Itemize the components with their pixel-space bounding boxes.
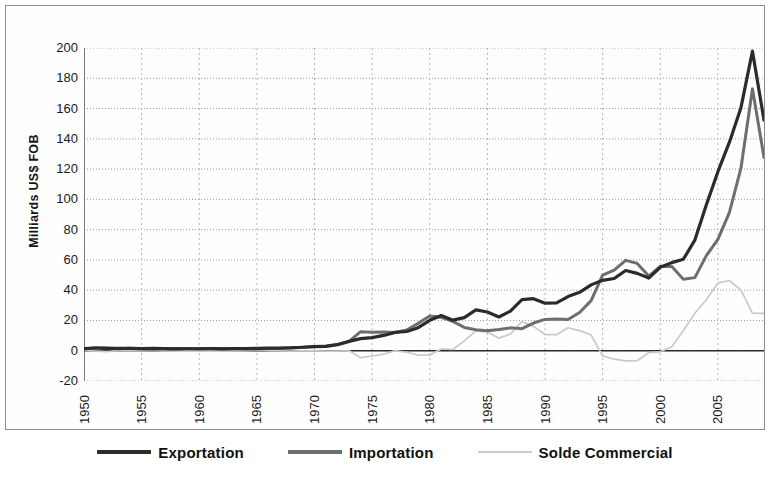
legend-line-icon xyxy=(288,450,342,454)
x-tick-label-text: 2005 xyxy=(710,395,725,424)
chart-figure: Milliards US$ FOB 2001801601401201008060… xyxy=(0,0,775,493)
y-tick-label: 80 xyxy=(36,223,78,236)
gridlines xyxy=(84,48,764,381)
y-tick-label: 100 xyxy=(36,192,78,205)
y-tick-label: 120 xyxy=(36,162,78,175)
x-tick-label: 1995 xyxy=(578,384,628,417)
legend-item[interactable]: Solde Commercial xyxy=(478,444,673,461)
x-tick-label: 1975 xyxy=(347,384,397,417)
plot-area xyxy=(84,48,764,381)
series-line xyxy=(84,89,764,349)
legend-line-icon xyxy=(97,450,151,454)
x-tick-label-text: 1955 xyxy=(134,395,149,424)
x-tick-label-text: 1960 xyxy=(192,395,207,424)
x-tick-label: 1990 xyxy=(520,384,570,417)
legend-line-icon xyxy=(478,451,532,453)
x-tick-label: 2000 xyxy=(635,384,685,417)
x-tick-label: 1950 xyxy=(59,384,109,417)
chart-legend: ExportationImportationSolde Commercial xyxy=(5,432,765,472)
x-tick-label-text: 2000 xyxy=(653,395,668,424)
legend-item[interactable]: Exportation xyxy=(97,444,244,461)
legend-label: Importation xyxy=(349,444,434,461)
x-tick-label-text: 1980 xyxy=(422,395,437,424)
series-line xyxy=(84,51,764,349)
plot-svg xyxy=(84,48,764,381)
x-tick-label: 1970 xyxy=(290,384,340,417)
x-tick-label: 1955 xyxy=(117,384,167,417)
x-tick-label: 1985 xyxy=(462,384,512,417)
x-tick-label: 2005 xyxy=(693,384,743,417)
y-tick-label: 20 xyxy=(36,313,78,326)
x-axis-tick-labels: 1950195519601965197019751980198519901995… xyxy=(84,384,764,434)
x-tick-label: 1960 xyxy=(174,384,224,417)
legend-item[interactable]: Importation xyxy=(288,444,434,461)
x-tick-label: 1980 xyxy=(405,384,455,417)
x-tick-label-text: 1965 xyxy=(249,395,264,424)
x-tick-label-text: 1995 xyxy=(595,395,610,424)
y-tick-label: 200 xyxy=(36,41,78,54)
legend-label: Solde Commercial xyxy=(539,444,673,461)
data-series xyxy=(84,51,764,361)
x-tick-label-text: 1950 xyxy=(76,395,91,424)
y-tick-label: 160 xyxy=(36,102,78,115)
chart-frame: Milliards US$ FOB 2001801601401201008060… xyxy=(5,5,765,430)
x-tick-label-text: 1990 xyxy=(538,395,553,424)
y-tick-label: 60 xyxy=(36,253,78,266)
y-tick-label: 0 xyxy=(36,344,78,357)
y-tick-label: 180 xyxy=(36,71,78,84)
x-tick-label-text: 1970 xyxy=(307,395,322,424)
axis-lines xyxy=(84,48,764,381)
legend-label: Exportation xyxy=(158,444,244,461)
y-tick-label: 40 xyxy=(36,283,78,296)
y-axis-tick-labels: 200180160140120100806040200-20 xyxy=(34,48,78,381)
bottom-margin xyxy=(0,478,775,493)
x-tick-label: 1965 xyxy=(232,384,282,417)
x-tick-label-text: 1975 xyxy=(365,395,380,424)
x-tick-label-text: 1985 xyxy=(480,395,495,424)
y-tick-label: 140 xyxy=(36,132,78,145)
